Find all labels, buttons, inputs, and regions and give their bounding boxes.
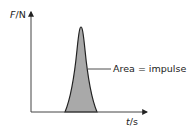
y-axis-label: F/N xyxy=(10,10,26,20)
x-axis-label: t/s xyxy=(126,117,138,127)
y-axis-unit: /N xyxy=(15,9,25,20)
annotation-label: Area = impulse xyxy=(113,64,186,74)
impulse-area xyxy=(65,27,97,112)
x-axis-unit: /s xyxy=(130,116,138,127)
